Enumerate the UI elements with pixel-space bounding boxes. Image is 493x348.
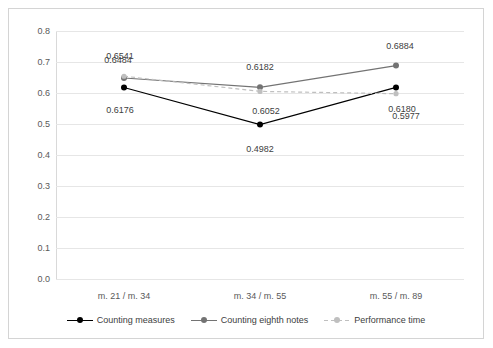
- legend-item[interactable]: Performance time: [324, 315, 425, 325]
- legend-swatch: [67, 316, 93, 325]
- series-point: [257, 89, 262, 94]
- legend-swatch: [324, 316, 350, 325]
- data-label: 0.6541: [106, 51, 134, 61]
- data-label: 0.6052: [252, 106, 280, 116]
- data-label: 0.5977: [392, 111, 420, 121]
- y-axis-tick-label: 0.5: [37, 119, 50, 129]
- series-point: [393, 84, 399, 90]
- x-axis-tick-label: m. 55 / m. 89: [370, 291, 423, 301]
- series-point: [393, 91, 398, 96]
- series-point: [121, 85, 127, 91]
- x-axis-tick-label: m. 21 / m. 34: [98, 291, 151, 301]
- chart-container: 0.00.10.20.30.40.50.60.70.8 m. 21 / m. 3…: [8, 8, 484, 339]
- y-axis-tick-label: 0.4: [37, 150, 50, 160]
- y-axis-tick-label: 0.2: [37, 212, 50, 222]
- y-axis-tick-label: 0.8: [37, 26, 50, 36]
- legend-label: Performance time: [354, 315, 425, 325]
- y-axis-tick-label: 0.6: [37, 88, 50, 98]
- series-point: [257, 122, 263, 128]
- series-point: [393, 63, 399, 69]
- data-label: 0.4982: [246, 144, 274, 154]
- data-label: 0.6176: [106, 105, 134, 115]
- x-axis-tick-label: m. 34 / m. 55: [234, 291, 287, 301]
- gridline: [56, 279, 464, 280]
- y-axis-tick-label: 0.3: [37, 181, 50, 191]
- chart-legend: Counting measuresCounting eighth notesPe…: [9, 315, 483, 325]
- y-axis-tick-label: 0.0: [37, 274, 50, 284]
- legend-label: Counting eighth notes: [221, 315, 309, 325]
- series-point: [121, 74, 126, 79]
- legend-swatch: [191, 316, 217, 325]
- y-axis-tick-label: 0.1: [37, 243, 50, 253]
- y-axis-tick-label: 0.7: [37, 57, 50, 67]
- legend-item[interactable]: Counting measures: [67, 315, 175, 325]
- data-label: 0.6884: [386, 41, 414, 51]
- legend-item[interactable]: Counting eighth notes: [191, 315, 309, 325]
- legend-label: Counting measures: [97, 315, 175, 325]
- data-label: 0.6182: [246, 62, 274, 72]
- plot-area: 0.00.10.20.30.40.50.60.70.8 m. 21 / m. 3…: [56, 31, 464, 279]
